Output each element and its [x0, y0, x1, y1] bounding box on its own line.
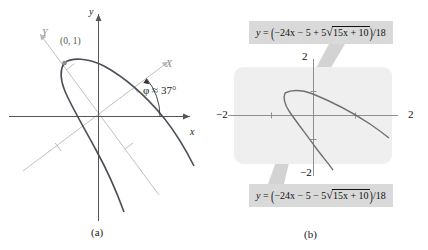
rotated-axis-label-x: X — [166, 58, 172, 69]
equation-top-lhs: y — [256, 27, 260, 38]
equation-top-numerator: −24x − 5 + 5 — [274, 27, 326, 38]
axis-label-y: y — [89, 6, 93, 17]
equation-bottom-close-paren: ) — [370, 188, 373, 204]
equation-callout-top: y = (−24x − 5 + 5√15x + 10)/18 — [249, 21, 393, 44]
equation-bottom-denominator: /18 — [373, 190, 386, 201]
panel-caption-b: (b) — [304, 228, 317, 240]
tick-label-bottom: −2 — [300, 166, 312, 178]
panel-b-group — [228, 44, 398, 184]
rotated-axis-label-y: Y — [42, 27, 48, 38]
axis-label-x: x — [190, 126, 194, 137]
equation-top-equals: = — [263, 27, 269, 38]
equation-callout-bottom: y = (−24x − 5 − 5√15x + 10)/18 — [249, 184, 393, 207]
equation-top-close-paren: ) — [370, 25, 373, 41]
equation-top-radicand: 15x + 10 — [332, 26, 370, 38]
tick-label-left: −2 — [216, 108, 228, 120]
y-axis — [96, 14, 102, 221]
panel-caption-a: (a) — [91, 226, 103, 238]
equation-top-denominator: /18 — [373, 27, 386, 38]
equation-top-open-paren: ( — [271, 25, 274, 41]
equation-bottom-radicand: 15x + 10 — [332, 189, 370, 201]
panel-a-group — [9, 14, 194, 221]
equation-bottom-numerator: −24x − 5 − 5 — [274, 190, 326, 201]
tick-label-right: 2 — [408, 108, 414, 120]
equation-bottom-lhs: y — [256, 190, 260, 201]
point-label-0-1: (0, 1) — [60, 36, 81, 46]
equation-bottom-open-paren: ( — [271, 188, 274, 204]
rotated-y-axis — [40, 34, 159, 195]
angle-label: φ ≈ 37° — [143, 84, 176, 96]
equation-bottom-equals: = — [263, 190, 269, 201]
tick-label-top: 2 — [302, 50, 308, 62]
rotated-parabola-curve — [61, 59, 194, 212]
vertex-point-marker — [62, 61, 67, 66]
